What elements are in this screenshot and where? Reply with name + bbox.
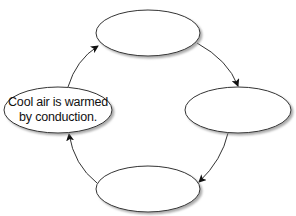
- node-bottom: [96, 166, 200, 212]
- arrow-bottom-to-left: [69, 134, 97, 183]
- arrow-right-to-bottom: [199, 133, 228, 182]
- node-left-label: Cool air is warmed by conduction.: [4, 87, 112, 133]
- node-top: [96, 10, 200, 56]
- node-right: [185, 87, 291, 133]
- arrow-left-to-top: [68, 46, 98, 87]
- arrow-top-to-right: [197, 43, 238, 86]
